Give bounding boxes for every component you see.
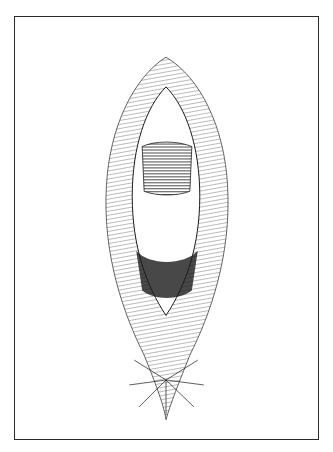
medical-illustration xyxy=(15,17,318,439)
figure-frame: Monochrome pen-and-ink clinical anatomic… xyxy=(14,16,319,440)
